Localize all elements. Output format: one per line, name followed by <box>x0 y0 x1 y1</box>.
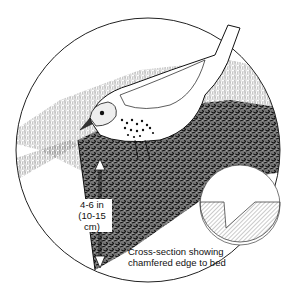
bird-eye <box>100 111 104 115</box>
illustration: 4-6 in (10-15 cm) Cross-section showing … <box>0 0 297 300</box>
caption-line-2: chamfered edge to bed <box>128 257 226 268</box>
cross-section-inset <box>200 165 280 245</box>
cross-section-caption: Cross-section showing chamfered edge to … <box>128 246 226 268</box>
depth-label-in: 4-6 in <box>72 199 112 210</box>
depth-label-cm: (10-15 cm) <box>72 210 112 232</box>
caption-line-1: Cross-section showing <box>128 246 226 257</box>
depth-label: 4-6 in (10-15 cm) <box>72 199 112 232</box>
